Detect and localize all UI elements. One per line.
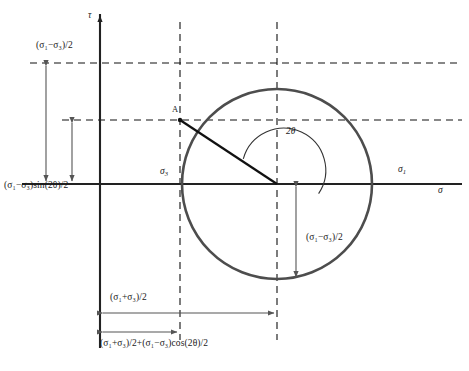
label-angle-2theta-text: 2θ [286,126,296,136]
label-mean-stress-text: (σ₁+σ₃)/2 [110,292,147,302]
dimension-arrows [46,66,296,332]
point-a-marker [178,118,182,122]
label-sigma1: σ1 [398,164,406,175]
label-shear-component-text: (σ₁−σ₃)sin(2θ)/2 [4,180,68,190]
mohr-circle-figure: (σ₁−σ₃)/2 (σ₁−σ₃)sin(2θ)/2 (σ₁−σ₃)/2 (σ₁… [0,0,469,371]
label-mean-stress: (σ₁+σ₃)/2 [110,292,147,302]
label-radius-right: (σ₁−σ₃)/2 [306,232,343,242]
axes [22,14,462,348]
label-sigma3-sub: 3 [165,170,168,177]
label-radius-left-top-text: (σ₁−σ₃)/2 [36,40,73,50]
radius-line-to-point-a [180,120,277,184]
label-tau-axis-text: τ [88,10,92,20]
label-radius-left-top: (σ₁−σ₃)/2 [36,40,73,50]
figure-canvas [0,0,469,371]
label-sigma1-sub: 1 [403,168,406,175]
dashed-construction-lines [30,22,462,340]
label-point-a: A [172,104,178,114]
label-point-a-text: A [172,104,178,114]
label-angle-2theta: 2θ [286,126,296,136]
label-tau-axis: τ [88,10,92,20]
label-sigma-axis: σ [438,185,443,195]
label-shear-component: (σ₁−σ₃)sin(2θ)/2 [4,180,68,190]
label-radius-right-text: (σ₁−σ₃)/2 [306,232,343,242]
label-normal-stress-on-plane-text: (σ₁+σ₃)/2+(σ₁−σ₃)cos(2θ)/2 [100,338,208,348]
label-normal-stress-on-plane: (σ₁+σ₃)/2+(σ₁−σ₃)cos(2θ)/2 [100,338,208,348]
label-sigma-axis-text: σ [438,185,443,195]
label-sigma3: σ3 [160,166,168,177]
